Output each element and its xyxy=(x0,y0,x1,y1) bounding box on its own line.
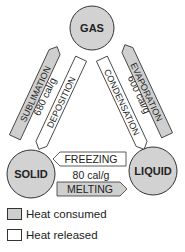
released-swatch xyxy=(7,229,22,241)
liquid-label: LIQUID xyxy=(134,165,171,177)
legend-consumed: Heat consumed xyxy=(7,207,177,221)
solid-node: SOLID xyxy=(7,150,55,198)
liquid-node: LIQUID xyxy=(129,147,177,195)
gas-node: GAS xyxy=(70,6,114,50)
legend-released: Heat released xyxy=(7,228,177,242)
solid-label: SOLID xyxy=(14,168,48,180)
gas-label: GAS xyxy=(80,22,104,34)
melting-arrow: MELTING xyxy=(57,182,127,196)
consumed-swatch xyxy=(7,208,22,220)
released-label: Heat released xyxy=(26,229,98,241)
freezing-arrow: FREEZING xyxy=(53,152,126,166)
melting-label: MELTING xyxy=(67,183,113,195)
solid-liquid-energy-label: 80 cal/g xyxy=(73,169,110,181)
consumed-label: Heat consumed xyxy=(26,208,107,220)
freezing-label: FREEZING xyxy=(64,153,117,165)
